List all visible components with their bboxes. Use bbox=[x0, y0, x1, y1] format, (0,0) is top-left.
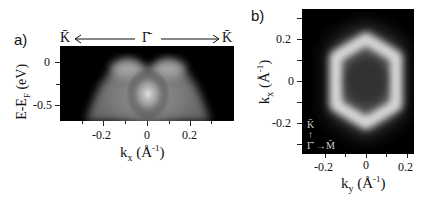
panel-a-xtick bbox=[103, 121, 104, 126]
panel-b-xtick bbox=[386, 154, 387, 157]
panel-b-xtick-label: 0 bbox=[363, 159, 369, 171]
orientation-inset: K̄ ↑ Γ̄ → M̄ bbox=[305, 120, 365, 154]
panel-a-xtick bbox=[147, 121, 148, 126]
panel-b-xtick bbox=[325, 154, 326, 158]
panel-a-plot-area bbox=[60, 46, 234, 121]
panel-a-ytick-label: 0 bbox=[44, 56, 50, 68]
panel-b-ytick-label: 0 bbox=[288, 75, 294, 87]
panel-b-ytick-label: 0.2 bbox=[276, 33, 291, 45]
panel-a-xtick bbox=[169, 121, 170, 124]
panel-a-y-axis-title: E-EF (eV) bbox=[14, 47, 32, 137]
panel-b-ytick bbox=[297, 102, 302, 103]
arrow-up-icon: ↑ bbox=[308, 130, 313, 140]
panel-b-xtick-label: 0.2 bbox=[398, 161, 413, 173]
panel-b-ytick bbox=[297, 81, 302, 82]
panel-a-top-annotation: K̄ Γ̄ K̄ bbox=[60, 30, 235, 46]
panel-b-xtick-label: -0.2 bbox=[314, 161, 333, 173]
panel-a-ytick-neg05 bbox=[55, 105, 60, 106]
panel-a-xtick-label: -0.2 bbox=[92, 129, 111, 141]
m-bar-inset-label: M̄ bbox=[326, 141, 335, 151]
panel-b-y-axis-title: kx (Å-1) bbox=[255, 42, 275, 122]
panel-a-label: a) bbox=[14, 31, 27, 48]
panel-b-ytick bbox=[297, 144, 302, 145]
panel-b-ytick bbox=[297, 60, 302, 61]
panel-b-x-axis-title: ky (Å-1) bbox=[341, 174, 386, 194]
k-bar-left-label: K̄ bbox=[60, 30, 70, 46]
panel-a-xtick-label: 0.2 bbox=[182, 129, 197, 141]
panel-a-xtick-label: 0 bbox=[144, 129, 150, 141]
panel-a-xtick bbox=[190, 121, 191, 126]
k-bar-right-label: K̄ bbox=[222, 30, 232, 46]
panel-b-plot-area: K̄ ↑ Γ̄ → M̄ bbox=[302, 9, 414, 154]
gamma-bar-inset-label: Γ̄ bbox=[307, 141, 313, 151]
panel-a-xtick bbox=[82, 121, 83, 124]
panel-b-xtick bbox=[407, 154, 408, 158]
panel-a-xtick bbox=[125, 121, 126, 124]
panel-b-ytick bbox=[297, 123, 302, 124]
panel-a-x-axis-title: kx (Å-1) bbox=[120, 143, 165, 163]
panel-b-ytick bbox=[297, 18, 302, 19]
band-dispersion-heatmap bbox=[60, 46, 234, 121]
panel-b-xtick bbox=[345, 154, 346, 157]
panel-b-label: b) bbox=[251, 7, 264, 24]
gamma-bar-label: Γ̄ bbox=[142, 30, 150, 46]
panel-a-ytick-minor bbox=[56, 84, 60, 85]
panel-a-ytick-0 bbox=[55, 62, 60, 63]
panel-b-ytick bbox=[297, 39, 302, 40]
panel-a-xtick bbox=[211, 121, 212, 124]
arrow-right-icon: → bbox=[316, 141, 326, 151]
panel-a-ytick-label: -0.5 bbox=[33, 99, 52, 111]
